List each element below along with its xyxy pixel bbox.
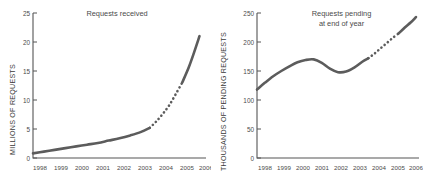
chart-title-requests-pending: Requests pending at end of year	[284, 9, 399, 28]
chart-title-requests-received: Requests received	[62, 9, 172, 19]
plot-area-requests-received: 0 5 10 15 20 25 1998 1999 2000 2001 2002…	[0, 0, 211, 183]
x-tick-label: 1998	[33, 164, 47, 171]
axis-lines-right	[257, 13, 419, 158]
y-axis-label-millions-of-requests: MILLIONS OF REQUESTS	[9, 64, 17, 155]
curve-actual-received	[33, 128, 150, 154]
y-tick-label: 5	[26, 126, 30, 133]
x-tick-labels-right: 1998 1999 2000 2001 2002 2003 2004 2005 …	[258, 164, 423, 171]
x-tick-label: 1999	[277, 164, 291, 171]
curve-projected-received	[150, 83, 182, 128]
x-tick-label: 2003	[353, 164, 367, 171]
x-tick-label: 2006	[199, 164, 211, 171]
x-tick-label: 2000	[296, 164, 310, 171]
axis-lines-left	[33, 13, 206, 158]
x-tick-labels-left: 1998 1999 2000 2001 2002 2003 2004 2005 …	[33, 164, 211, 171]
x-tick-label: 2004	[159, 164, 173, 171]
x-tick-label: 2001	[315, 164, 329, 171]
y-ticks-left	[33, 13, 37, 158]
x-tick-label: 2005	[391, 164, 405, 171]
x-tick-label: 2005	[180, 164, 194, 171]
x-tick-label: 2006	[409, 164, 423, 171]
y-tick-label: 0	[250, 155, 254, 162]
x-tick-label: 2002	[334, 164, 348, 171]
x-tick-label: 1998	[258, 164, 272, 171]
x-tick-label: 2002	[117, 164, 131, 171]
chart-requests-pending: Requests pending at end of year THOUSAND…	[211, 0, 423, 183]
data-curves-left	[33, 36, 200, 153]
y-tick-label: 200	[243, 39, 254, 46]
curve-projected-pending	[368, 33, 398, 58]
x-tick-label: 2001	[96, 164, 110, 171]
curve-final-received	[182, 36, 199, 82]
y-tick-label: 15	[23, 68, 31, 75]
y-tick-label: 20	[23, 39, 31, 46]
y-tick-label: 250	[243, 10, 254, 17]
x-tick-label: 2004	[372, 164, 386, 171]
x-tick-label: 2003	[138, 164, 152, 171]
figure-sheet: Requests received MILLIONS OF REQUESTS 0…	[0, 0, 423, 183]
y-tick-labels-left: 0 5 10 15 20 25	[23, 10, 31, 162]
x-tick-label: 1999	[54, 164, 68, 171]
y-axis-label-thousands-of-pending-requests: THOUSANDS OF PENDING REQUESTS	[220, 32, 228, 171]
curve-final-pending	[399, 17, 416, 33]
y-tick-label: 0	[26, 155, 30, 162]
y-tick-labels-right: 0 50 100 150 200 250	[243, 10, 254, 162]
y-tick-label: 150	[243, 68, 254, 75]
y-tick-label: 10	[23, 97, 31, 104]
y-tick-label: 25	[23, 10, 31, 17]
chart-requests-received: Requests received MILLIONS OF REQUESTS 0…	[0, 0, 211, 183]
y-tick-label: 50	[247, 126, 255, 133]
curve-actual-pending	[257, 58, 368, 89]
y-tick-label: 100	[243, 97, 254, 104]
x-tick-label: 2000	[75, 164, 89, 171]
